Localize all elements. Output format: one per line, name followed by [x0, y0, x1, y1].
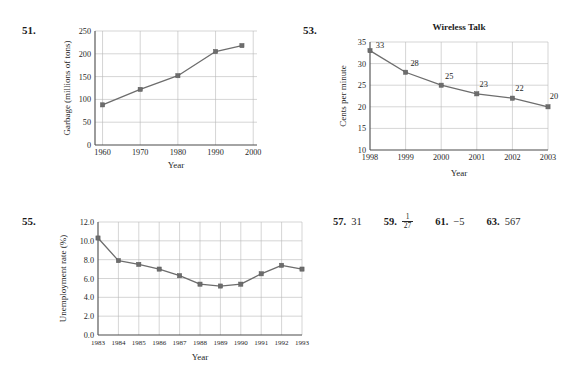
- y-tick-label: 150: [79, 73, 91, 82]
- data-point: [546, 105, 550, 109]
- data-point-label: 33: [376, 41, 384, 50]
- chart-title: Wireless Talk: [432, 22, 486, 32]
- answer-number: 57.: [333, 216, 346, 227]
- chart-wireless-talk: 1015202530351998199920002001200220033328…: [334, 18, 566, 183]
- exercise-number-51: 51.: [22, 24, 36, 36]
- x-tick-label: 1991: [254, 339, 269, 347]
- data-point: [475, 92, 479, 96]
- data-point: [259, 272, 263, 276]
- x-tick-label: 1980: [170, 148, 186, 157]
- data-point: [280, 263, 284, 267]
- data-point-label: 22: [515, 84, 523, 93]
- y-axis-title: Unemployment rate (%): [58, 235, 68, 322]
- y-tick-label: 200: [79, 50, 91, 59]
- x-tick-label: 1998: [362, 153, 378, 162]
- chart-unemployment-svg: 0.02.04.06.08.010.012.019831984198519861…: [52, 208, 317, 373]
- y-axis-title: Cents per minute: [338, 65, 348, 127]
- x-tick-label: 1988: [193, 339, 208, 347]
- y-axis-title: Garbage (millions of tons): [62, 40, 72, 135]
- x-tick-label: 1984: [111, 339, 126, 347]
- answer-item: 63.567: [487, 216, 521, 227]
- x-tick-label: 1987: [173, 339, 188, 347]
- answer-value: 31: [351, 216, 362, 227]
- x-tick-label: 1986: [152, 339, 167, 347]
- y-tick-label: 50: [83, 118, 91, 127]
- y-tick-label: 10.0: [80, 237, 94, 246]
- chart-wireless-talk-svg: 1015202530351998199920002001200220033328…: [334, 18, 566, 183]
- series-line: [103, 46, 242, 105]
- y-tick-label: 30: [358, 60, 366, 69]
- x-tick-label: 1989: [213, 339, 228, 347]
- data-point: [137, 262, 141, 266]
- x-axis-title: Year: [451, 168, 468, 178]
- data-point: [138, 87, 142, 91]
- exercise-number-53: 53.: [303, 24, 317, 36]
- data-point: [198, 282, 202, 286]
- data-point-label: 28: [410, 59, 418, 68]
- answer-item: 57.31: [333, 216, 362, 227]
- fraction-numerator: 1: [404, 213, 412, 221]
- x-tick-label: 1992: [275, 339, 290, 347]
- answer-number: 63.: [487, 216, 500, 227]
- y-tick-label: 15: [358, 124, 366, 133]
- data-point: [157, 267, 161, 271]
- x-tick-label: 1970: [132, 148, 148, 157]
- answer-fraction: 127: [402, 213, 414, 229]
- chart-unemployment: 0.02.04.06.08.010.012.019831984198519861…: [52, 208, 317, 373]
- x-tick-label: 1999: [397, 153, 413, 162]
- data-point: [178, 274, 182, 278]
- x-tick-label: 1983: [91, 339, 106, 347]
- data-point: [368, 49, 372, 53]
- data-point: [116, 259, 120, 263]
- x-axis-title: Year: [192, 352, 209, 362]
- data-point: [300, 267, 304, 271]
- data-point-label: 23: [480, 80, 488, 89]
- x-tick-label: 1990: [207, 148, 223, 157]
- x-axis-title: Year: [168, 160, 185, 170]
- y-tick-label: 35: [358, 38, 366, 47]
- y-tick-label: 4.0: [84, 293, 94, 302]
- y-tick-label: 6.0: [84, 275, 94, 284]
- y-tick-label: 20: [358, 103, 366, 112]
- data-point: [213, 49, 217, 53]
- x-tick-label: 2000: [433, 153, 449, 162]
- data-point: [96, 236, 100, 240]
- data-point: [176, 74, 180, 78]
- chart-garbage: 05010015020025019601970198019902000Garba…: [60, 18, 275, 173]
- data-point: [510, 96, 514, 100]
- answers-row: 57.3159.12761.−563.567: [333, 213, 520, 229]
- x-tick-label: 1990: [234, 339, 249, 347]
- data-point: [218, 284, 222, 288]
- data-point: [404, 70, 408, 74]
- x-tick-label: 1993: [295, 339, 310, 347]
- x-tick-label: 1960: [94, 148, 110, 157]
- data-point: [240, 43, 244, 47]
- x-tick-label: 2003: [540, 153, 556, 162]
- answer-number: 61.: [435, 216, 448, 227]
- x-tick-label: 1985: [132, 339, 147, 347]
- chart-garbage-svg: 05010015020025019601970198019902000Garba…: [60, 18, 275, 173]
- y-tick-label: 2.0: [84, 312, 94, 321]
- data-point: [100, 103, 104, 107]
- exercise-number-55: 55.: [22, 215, 36, 227]
- series-line: [370, 51, 548, 107]
- x-tick-label: 2001: [469, 153, 485, 162]
- y-tick-label: 25: [358, 81, 366, 90]
- answer-item: 59.127: [384, 213, 414, 229]
- y-tick-label: 100: [79, 95, 91, 104]
- answer-item: 61.−5: [435, 216, 464, 227]
- data-point-label: 20: [550, 92, 558, 101]
- x-tick-label: 2000: [245, 148, 261, 157]
- fraction-denominator: 27: [402, 221, 414, 230]
- answer-value: 567: [505, 216, 521, 227]
- y-tick-label: 12.0: [80, 218, 94, 227]
- y-tick-label: 250: [79, 27, 91, 36]
- y-tick-label: 8.0: [84, 256, 94, 265]
- data-point: [239, 282, 243, 286]
- data-point-label: 25: [445, 72, 453, 81]
- x-tick-label: 2002: [504, 153, 520, 162]
- data-point: [439, 83, 443, 87]
- y-tick-label: 0: [87, 141, 91, 150]
- answer-number: 59.: [384, 216, 397, 227]
- answer-value: −5: [453, 216, 464, 227]
